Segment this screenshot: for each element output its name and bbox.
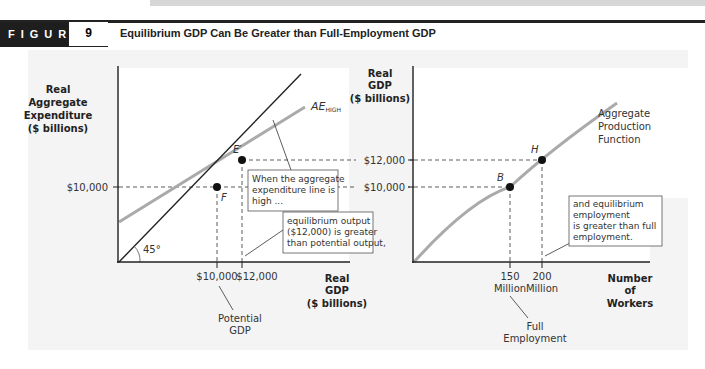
svg-text:GDP: GDP bbox=[229, 325, 250, 336]
svg-text:Million: Million bbox=[526, 283, 558, 294]
right-y-tick-12000: $12,000 bbox=[364, 155, 405, 166]
svg-text:equilibrium output: equilibrium output bbox=[287, 216, 371, 226]
svg-text:Real: Real bbox=[368, 68, 393, 79]
svg-text:GDP: GDP bbox=[368, 80, 392, 91]
svg-text:high ...: high ... bbox=[252, 196, 283, 206]
svg-text:Potential: Potential bbox=[218, 313, 262, 324]
label-f: F bbox=[221, 192, 227, 203]
svg-text:Production: Production bbox=[598, 121, 651, 132]
right-x-label: Number of Workers bbox=[607, 273, 654, 309]
svg-text:Aggregate: Aggregate bbox=[28, 97, 87, 108]
svg-text:200: 200 bbox=[532, 271, 551, 282]
svg-text:($ billions): ($ billions) bbox=[28, 123, 88, 134]
svg-text:expenditure line is: expenditure line is bbox=[252, 185, 336, 195]
svg-text:($ billions): ($ billions) bbox=[307, 298, 367, 309]
svg-text:Workers: Workers bbox=[607, 298, 654, 309]
point-e-prime bbox=[238, 156, 246, 164]
svg-text:Employment: Employment bbox=[503, 333, 566, 344]
left-x-label: Real GDP ($ billions) bbox=[307, 273, 367, 309]
svg-text:than potential output,: than potential output, bbox=[287, 238, 386, 248]
label-b: B bbox=[497, 172, 504, 183]
svg-text:($ billions): ($ billions) bbox=[350, 93, 410, 104]
point-b bbox=[506, 183, 514, 191]
svg-text:and equilibrium: and equilibrium bbox=[573, 199, 644, 209]
left-y-tick-10000: $10,000 bbox=[67, 182, 108, 193]
svg-text:employment.: employment. bbox=[573, 232, 633, 242]
point-f bbox=[213, 183, 221, 191]
svg-text:GDP: GDP bbox=[325, 285, 349, 296]
svg-text:Full: Full bbox=[526, 321, 543, 332]
potential-gdp-label: Potential GDP bbox=[218, 313, 262, 336]
point-h bbox=[538, 156, 546, 164]
label-e-prime: E′ bbox=[233, 144, 242, 155]
left-x-tick-10000: $10,000 bbox=[196, 271, 237, 282]
right-y-tick-10000: $10,000 bbox=[364, 182, 405, 193]
angle-label: 45° bbox=[143, 244, 161, 255]
svg-text:($12,000) is greater: ($12,000) is greater bbox=[287, 227, 377, 237]
left-y-label: Real Aggregate Expenditure ($ billions) bbox=[24, 84, 93, 134]
label-h: H bbox=[531, 144, 539, 155]
full-employment-label: Full Employment bbox=[503, 321, 566, 344]
chart-canvas: Real Aggregate Expenditure ($ billions) … bbox=[0, 0, 705, 369]
right-y-label: Real GDP ($ billions) bbox=[350, 68, 410, 104]
svg-text:employment: employment bbox=[573, 210, 630, 220]
svg-text:Number: Number bbox=[608, 273, 653, 284]
svg-text:Million: Million bbox=[494, 283, 526, 294]
svg-text:of: of bbox=[624, 285, 636, 296]
svg-text:Aggregate: Aggregate bbox=[598, 108, 650, 119]
svg-text:Real: Real bbox=[325, 273, 350, 284]
svg-text:Real: Real bbox=[46, 84, 71, 95]
svg-text:Expenditure: Expenditure bbox=[24, 110, 93, 121]
svg-text:Function: Function bbox=[598, 134, 641, 145]
left-x-tick-12000: $12,000 bbox=[236, 271, 277, 282]
svg-text:is greater than full: is greater than full bbox=[573, 221, 656, 231]
right-x-ticks: 150 Million 200 Million bbox=[494, 271, 558, 294]
svg-text:150: 150 bbox=[500, 271, 519, 282]
svg-text:When the aggregate: When the aggregate bbox=[252, 174, 345, 184]
